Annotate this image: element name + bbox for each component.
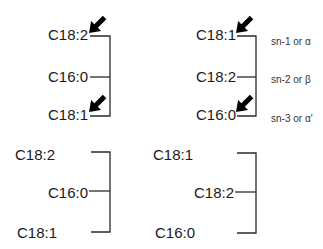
fatty-acid-sn1: C18:1 — [196, 26, 236, 43]
fatty-acid-sn3: C16:0 — [155, 224, 195, 241]
fatty-acid-sn2: C16:0 — [48, 68, 88, 85]
fatty-acid-sn3: C18:1 — [48, 106, 88, 123]
position-label-sn2: sn-2 or β — [271, 74, 311, 85]
tag-structure-diagram: C18:2 C16:0 C18:1 C18:1 C18:2 C16:0 sn-1… — [0, 0, 323, 249]
fatty-acid-sn3: C16:0 — [196, 106, 236, 123]
fatty-acid-sn2: C18:2 — [196, 68, 236, 85]
glycerol-backbone-line — [237, 153, 256, 233]
position-label-sn3: sn-3 or α' — [271, 113, 313, 124]
fatty-acid-sn2: C18:2 — [194, 184, 234, 201]
fatty-acid-sn3: C18:1 — [17, 224, 57, 241]
glycerol-backbone-line — [91, 152, 110, 232]
fatty-acid-sn2: C16:0 — [48, 184, 88, 201]
fatty-acid-sn1: C18:1 — [153, 146, 193, 163]
panel-top-right: C18:1 C18:2 C16:0 sn-1 or α sn-2 or β sn… — [196, 12, 313, 124]
panel-top-left: C18:2 C16:0 C18:1 — [48, 12, 110, 123]
fatty-acid-sn1: C18:2 — [48, 26, 88, 43]
panel-bottom-right: C18:1 C18:2 C16:0 — [153, 146, 256, 241]
panel-bottom-left: C18:2 C16:0 C18:1 — [15, 146, 110, 241]
fatty-acid-sn1: C18:2 — [15, 146, 55, 163]
position-label-sn1: sn-1 or α — [271, 36, 311, 47]
